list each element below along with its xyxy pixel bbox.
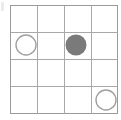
grid-board[interactable]: [10, 5, 118, 114]
marker-open-r4c4[interactable]: [96, 90, 116, 110]
marker-filled-r2c3[interactable]: [66, 35, 87, 56]
puzzle-root: [0, 0, 121, 120]
edge-speck-artifact: [1, 2, 4, 11]
grid-svg: [10, 5, 118, 114]
marker-open-r2c1[interactable]: [16, 35, 36, 55]
